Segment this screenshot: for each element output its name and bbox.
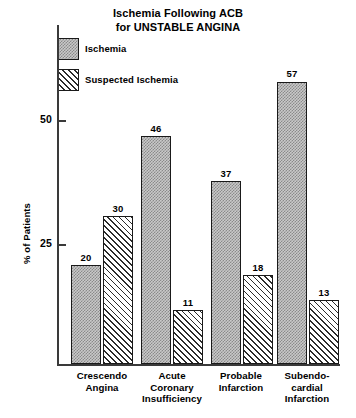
bar-value-ischemia-crescendo-angina: 20	[71, 252, 101, 263]
y-axis-line	[57, 25, 59, 366]
x-axis-label-subendocardial-infarction: Subendo- cardial Infarction	[262, 370, 352, 405]
chart-figure: Ischemia Following ACB for UNSTABLE ANGI…	[0, 0, 356, 418]
x-label-line: cardial	[262, 382, 352, 394]
plot-area: 50 25 % of Patients 20 30 46 11 37 18 57…	[0, 0, 356, 418]
bar-value-ischemia-acute-coronary-insufficiency: 46	[141, 123, 171, 134]
bar-suspected-acute-coronary-insufficiency	[173, 310, 203, 365]
bar-ischemia-crescendo-angina	[71, 265, 101, 364]
bar-value-suspected-subendocardial-infarction: 13	[309, 287, 339, 298]
bar-value-ischemia-subendocardial-infarction: 57	[277, 68, 307, 79]
bar-suspected-subendocardial-infarction	[309, 300, 339, 365]
bar-ischemia-acute-coronary-insufficiency	[141, 136, 171, 364]
bar-ischemia-probable-infarction	[211, 181, 241, 365]
bar-value-suspected-crescendo-angina: 30	[103, 203, 133, 214]
y-axis-label: % of Patients	[21, 189, 32, 279]
x-label-line: Infarction	[262, 393, 352, 405]
bar-value-suspected-acute-coronary-insufficiency: 11	[173, 297, 203, 308]
bar-suspected-crescendo-angina	[103, 216, 133, 365]
bar-ischemia-subendocardial-infarction	[277, 82, 307, 365]
y-tick-label-50: 50	[22, 113, 52, 125]
x-axis-line	[57, 364, 340, 366]
x-label-line: Insufficiency	[127, 393, 217, 405]
x-label-line: Subendo-	[262, 370, 352, 382]
bar-value-ischemia-probable-infarction: 37	[211, 168, 241, 179]
bar-suspected-probable-infarction	[243, 275, 273, 364]
bar-value-suspected-probable-infarction: 18	[243, 262, 273, 273]
